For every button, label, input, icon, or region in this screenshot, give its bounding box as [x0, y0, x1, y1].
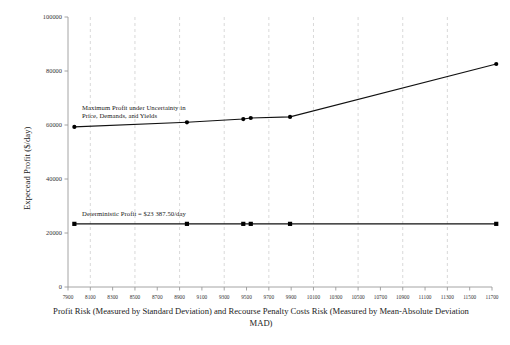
x-tick-label: 8700 — [152, 294, 163, 300]
data-point-marker — [249, 222, 253, 226]
x-tick-label: 8900 — [174, 294, 185, 300]
x-tick-label: 11300 — [441, 294, 454, 300]
data-point-marker — [288, 115, 292, 119]
y-tick-label: 80000 — [46, 67, 62, 74]
data-point-marker — [72, 125, 76, 129]
x-tick-label: 11500 — [463, 294, 476, 300]
x-tick-label: 8300 — [107, 294, 118, 300]
x-tick-label: 10900 — [396, 294, 410, 300]
x-tick-label: 7900 — [63, 294, 74, 300]
x-axis-title-line2: MAD) — [52, 318, 470, 330]
annotation-lower-line1: Deterministic Profit = $23 387.50/day — [82, 210, 186, 217]
data-point-marker — [185, 222, 189, 226]
series-deterministic-profit — [72, 222, 498, 226]
x-tick-label: 10300 — [329, 294, 343, 300]
x-tick-label: 8100 — [85, 294, 96, 300]
data-point-marker — [72, 222, 76, 226]
annotation-deterministic-profit: Deterministic Profit = $23 387.50/day — [82, 210, 186, 218]
axes-group — [68, 17, 492, 287]
y-tick-label: 40000 — [46, 175, 62, 182]
annotation-upper-line1: Maximum Profit under Uncertainty in — [82, 104, 186, 111]
x-tick-label: 11700 — [485, 294, 498, 300]
annotation-maximum-profit: Maximum Profit under Uncertainty in Pric… — [82, 104, 186, 121]
y-axis-title: Expecead Profit ($/day) — [22, 127, 32, 211]
data-point-marker — [249, 116, 253, 120]
y-tick-label: 100000 — [43, 13, 62, 20]
chart-container: 020000400006000080000100000 790081008300… — [0, 0, 510, 345]
x-tick-label: 9900 — [286, 294, 297, 300]
x-ticks-group: 7900810083008500870089009100930095009700… — [63, 287, 499, 300]
x-tick-label: 9300 — [219, 294, 230, 300]
x-tick-label: 10500 — [351, 294, 365, 300]
data-point-marker — [185, 120, 189, 124]
y-tick-label: 0 — [59, 283, 62, 290]
annotation-upper-line2: Price, Demands, and Yields — [82, 112, 157, 119]
y-tick-label: 60000 — [46, 121, 62, 128]
x-tick-label: 8500 — [130, 294, 141, 300]
y-tick-label: 20000 — [46, 229, 62, 236]
line-chart-svg: 020000400006000080000100000 790081008300… — [0, 0, 510, 345]
data-point-marker — [288, 222, 292, 226]
data-point-marker — [241, 117, 245, 121]
data-point-marker — [494, 222, 498, 226]
x-axis-title-line1: Profit Risk (Measured by Standard Deviat… — [53, 306, 469, 316]
x-tick-label: 9500 — [241, 294, 252, 300]
data-point-marker — [494, 62, 498, 66]
y-ticks-group: 020000400006000080000100000 — [43, 13, 68, 290]
x-tick-label: 9100 — [197, 294, 208, 300]
x-axis-title: Profit Risk (Measured by Standard Deviat… — [52, 306, 470, 329]
x-tick-label: 10100 — [307, 294, 321, 300]
x-tick-label: 9700 — [264, 294, 275, 300]
x-tick-label: 11100 — [419, 294, 432, 300]
data-point-marker — [241, 222, 245, 226]
x-tick-label: 10700 — [374, 294, 388, 300]
gridlines-group — [90, 17, 447, 287]
